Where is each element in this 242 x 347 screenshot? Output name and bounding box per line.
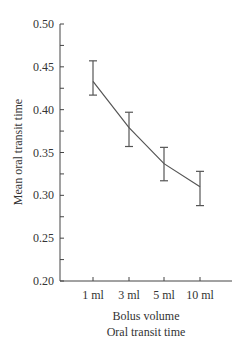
- x-tick-label: 5 ml: [153, 288, 175, 302]
- y-axis-ticks: 0.200.250.300.350.400.450.50: [33, 17, 64, 288]
- x-tick-label: 1 ml: [82, 288, 104, 302]
- y-tick-label: 0.20: [33, 274, 54, 288]
- y-tick-label: 0.30: [33, 188, 54, 202]
- y-tick-label: 0.25: [33, 231, 54, 245]
- x-axis-label: Bolus volume: [112, 309, 179, 323]
- y-tick-label: 0.40: [33, 103, 54, 117]
- series-line: [93, 81, 200, 186]
- x-tick-label: 10 ml: [186, 288, 214, 302]
- axes: [60, 24, 232, 281]
- chart-title: Oral transit time: [107, 325, 186, 339]
- y-tick-label: 0.50: [33, 17, 54, 31]
- y-tick-label: 0.35: [33, 146, 54, 160]
- y-axis-label: Mean oral transit time: [11, 99, 25, 205]
- y-tick-label: 0.45: [33, 60, 54, 74]
- x-tick-label: 3 ml: [118, 288, 140, 302]
- line-chart: 0.200.250.300.350.400.450.50 1 ml3 ml5 m…: [0, 0, 242, 347]
- data-series: [89, 61, 204, 206]
